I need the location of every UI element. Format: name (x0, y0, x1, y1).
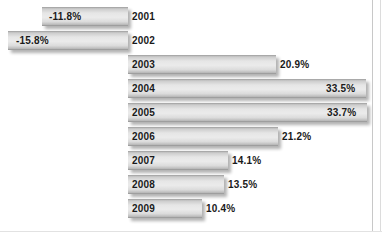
chart-frame-right-border (372, 0, 373, 232)
bar-chart: 2001-11.8%2002-15.8%200320.9%200433.5%20… (0, 0, 382, 232)
value-label: 13.5% (228, 177, 257, 192)
value-label: -15.8% (16, 33, 49, 48)
chart-row: 2001-11.8% (0, 5, 382, 29)
chart-row: 200910.4% (0, 197, 382, 221)
value-label: 14.1% (232, 153, 261, 168)
value-label: 21.2% (282, 129, 311, 144)
chart-plot-area: 2001-11.8%2002-15.8%200320.9%200433.5%20… (0, 0, 382, 232)
value-label: 33.7% (327, 105, 356, 120)
chart-row: 200813.5% (0, 173, 382, 197)
chart-row: 200433.5% (0, 77, 382, 101)
category-label: 2003 (132, 57, 155, 72)
chart-row: 200621.2% (0, 125, 382, 149)
chart-row: 200714.1% (0, 149, 382, 173)
value-label: -11.8% (49, 9, 81, 24)
category-label: 2007 (132, 153, 155, 168)
category-label: 2004 (132, 81, 155, 96)
chart-frame-outer-border (380, 0, 381, 232)
chart-row: 2002-15.8% (0, 29, 382, 53)
category-label: 2006 (132, 129, 155, 144)
category-label: 2005 (132, 105, 155, 120)
category-label: 2009 (132, 201, 155, 216)
chart-row: 200533.7% (0, 101, 382, 125)
chart-frame-bottom-border (0, 231, 382, 232)
category-label: 2002 (132, 33, 155, 48)
category-label: 2008 (132, 177, 155, 192)
value-label: 10.4% (206, 201, 235, 216)
chart-row: 200320.9% (0, 53, 382, 77)
category-label: 2001 (132, 9, 155, 24)
value-label: 20.9% (280, 57, 309, 72)
value-label: 33.5% (326, 81, 355, 96)
